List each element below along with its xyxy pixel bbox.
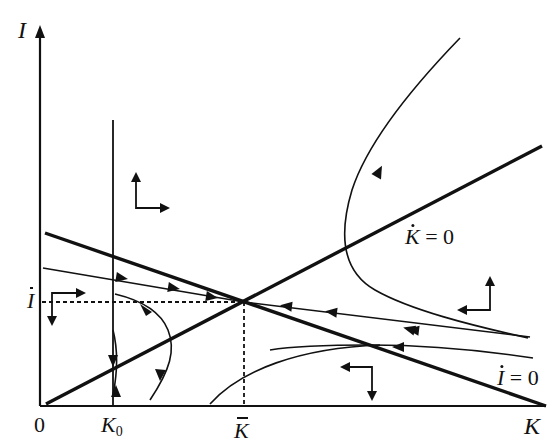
idot-nullcline-label: I = 0 [497, 367, 539, 389]
k0-tick-label: K0 [101, 414, 123, 439]
kdot-nullcline-label: K = 0 [405, 226, 454, 248]
direction-right-down-icon [47, 288, 86, 326]
origin-label: 0 [34, 414, 45, 436]
k0-label-text: K [101, 412, 116, 437]
y-axis-label: I [18, 18, 26, 42]
kdot-label-var: K [405, 226, 420, 248]
x-axis-label: K [524, 414, 540, 438]
trajectory-arrowheads [108, 163, 420, 397]
trajectory-right-hyperbola [345, 38, 528, 338]
y-axis-label-text: I [18, 17, 26, 43]
idot-label-var: I [497, 367, 504, 389]
ibar-tick-label: I [27, 290, 34, 312]
arrow-left-icon [324, 306, 337, 317]
equilibrium-point [243, 301, 246, 304]
x-axis-label-text: K [524, 413, 540, 439]
arrow-up-icon [371, 163, 386, 179]
direction-left-up-icon [457, 276, 495, 315]
kdot-label-eq: = 0 [420, 224, 454, 249]
direction-up-right-icon [131, 172, 170, 213]
arrow-left-icon [392, 342, 404, 352]
origin-label-text: 0 [34, 412, 45, 437]
kbar-label-text: K [234, 420, 249, 442]
idot-zero-nullcline [45, 233, 546, 406]
k0-subscript: 0 [116, 424, 123, 439]
ibar-label-text: I [27, 290, 34, 312]
trajectories [43, 38, 533, 404]
y-axis-arrow-icon [35, 25, 45, 38]
trajectory-bottom-arc [210, 345, 380, 404]
direction-left-down-icon [340, 362, 377, 401]
kbar-tick-label: K [234, 420, 249, 442]
arrow-right-icon [167, 282, 180, 294]
arrow-left-icon [279, 300, 292, 311]
axes [35, 25, 546, 406]
phase-diagram-canvas [0, 0, 560, 446]
idot-label-eq: = 0 [504, 365, 538, 390]
